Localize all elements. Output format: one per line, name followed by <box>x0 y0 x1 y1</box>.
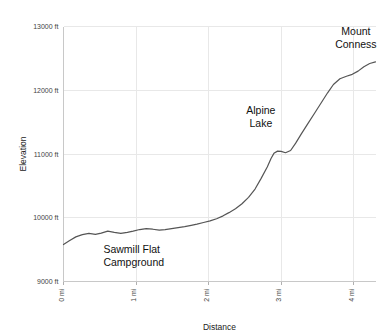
x-tick-label: 2 mi <box>203 288 210 302</box>
elevation-profile-chart: 9000 ft10000 ft11000 ft12000 ft13000 ft … <box>0 0 382 336</box>
x-tick-label: 3 mi <box>275 288 282 302</box>
annotation-line: Sawmill Flat <box>103 243 160 255</box>
annotation-line: Mount <box>341 25 370 37</box>
elevation-line <box>64 62 376 245</box>
annotation-line: Campground <box>103 256 164 268</box>
y-tick-label: 11000 ft <box>34 151 59 158</box>
y-tick-labels: 9000 ft10000 ft11000 ft12000 ft13000 ft <box>33 23 58 285</box>
elevation-series-path <box>64 62 376 245</box>
y-tick-label: 13000 ft <box>33 23 58 30</box>
point-annotations: Sawmill FlatCampgroundAlpineLakeMountCon… <box>103 25 376 268</box>
x-tick-label: 0 mi <box>58 288 65 302</box>
annotation-line: Alpine <box>246 104 275 116</box>
annotation-line: Conness <box>335 38 376 50</box>
chart-annotation-label: AlpineLake <box>246 104 275 129</box>
x-tick-label: 1 mi <box>130 288 137 302</box>
y-tick-label: 10000 ft <box>33 214 58 221</box>
y-tick-label: 9000 ft <box>37 278 58 285</box>
chart-annotation-label: MountConness <box>335 25 376 50</box>
chart-svg: 9000 ft10000 ft11000 ft12000 ft13000 ft … <box>0 0 382 336</box>
x-axis-title: Distance <box>203 322 236 332</box>
y-axis-title: Elevation <box>18 136 28 171</box>
annotation-line: Lake <box>249 117 272 129</box>
x-tick-label: 4 mi <box>348 288 355 302</box>
tick-marks <box>64 282 354 286</box>
y-tick-label: 12000 ft <box>33 87 58 94</box>
x-tick-labels: 0 mi1 mi2 mi3 mi4 mi <box>58 288 355 302</box>
chart-annotation-label: Sawmill FlatCampground <box>103 243 164 268</box>
